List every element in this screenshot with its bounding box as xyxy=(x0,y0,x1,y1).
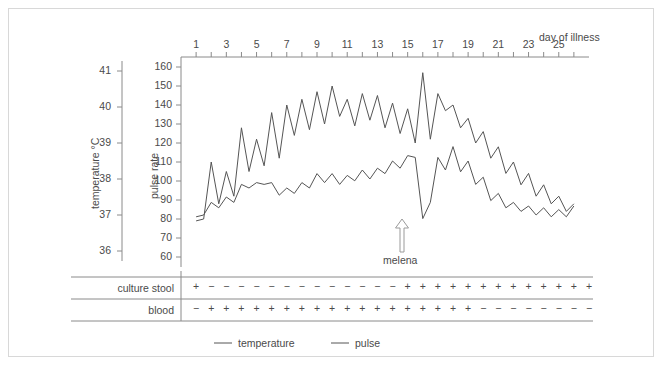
top-axis-tick-label-15: 15 xyxy=(394,39,422,50)
table-cell-blood-27: − xyxy=(580,303,598,314)
top-axis-tick-label-17: 17 xyxy=(424,39,452,50)
top-axis-tick-label-7: 7 xyxy=(273,39,301,50)
top-axis-tick-label-11: 11 xyxy=(333,39,361,50)
top-axis-tick-label-1: 1 xyxy=(182,39,210,50)
pulse-axis-tick-label-160: 160 xyxy=(144,61,172,72)
pulse-axis-tick-label-90: 90 xyxy=(144,194,172,205)
top-axis-tick-label-3: 3 xyxy=(212,39,240,50)
top-axis-tick-label-19: 19 xyxy=(454,39,482,50)
dynamic-text-layer: 1357911131517192123256070809010011012013… xyxy=(9,9,655,358)
pulse-axis-tick-label-60: 60 xyxy=(144,251,172,262)
pulse-axis-tick-label-70: 70 xyxy=(144,232,172,243)
top-axis-tick-label-9: 9 xyxy=(303,39,331,50)
top-axis-tick-label-25: 25 xyxy=(545,39,573,50)
pulse-axis-tick-label-120: 120 xyxy=(144,137,172,148)
pulse-axis-tick-label-110: 110 xyxy=(144,156,172,167)
figure-container: day of illness temperature °C pulse rate… xyxy=(8,8,654,357)
temperature-axis-tick-label-40: 40 xyxy=(85,101,111,112)
pulse-axis-tick-label-100: 100 xyxy=(144,175,172,186)
temperature-axis-tick-label-36: 36 xyxy=(85,245,111,256)
top-axis-tick-label-13: 13 xyxy=(363,39,391,50)
temperature-axis-tick-label-37: 37 xyxy=(85,209,111,220)
top-axis-tick-label-23: 23 xyxy=(515,39,543,50)
temperature-axis-tick-label-41: 41 xyxy=(85,65,111,76)
temperature-axis-tick-label-38: 38 xyxy=(85,173,111,184)
pulse-axis-tick-label-130: 130 xyxy=(144,118,172,129)
top-axis-tick-label-5: 5 xyxy=(243,39,271,50)
temperature-axis-tick-label-39: 39 xyxy=(85,137,111,148)
pulse-axis-tick-label-150: 150 xyxy=(144,80,172,91)
pulse-axis-tick-label-80: 80 xyxy=(144,213,172,224)
pulse-axis-tick-label-140: 140 xyxy=(144,99,172,110)
table-cell-culture-stool-27: + xyxy=(580,281,598,292)
top-axis-tick-label-21: 21 xyxy=(484,39,512,50)
